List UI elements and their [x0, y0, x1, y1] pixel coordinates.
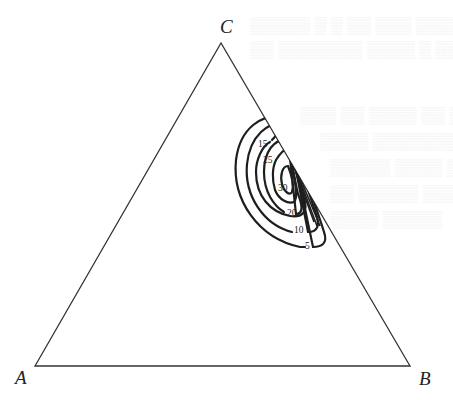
contour-label-15: 15: [258, 139, 268, 149]
contour-label-10: 10: [294, 225, 304, 235]
contour-label-30: 30: [278, 183, 288, 193]
contour-25: [273, 148, 296, 203]
contour-lines: [236, 117, 326, 247]
contour-label-20: 20: [287, 208, 297, 218]
vertex-label-b: B: [419, 369, 431, 388]
vertex-label-c: C: [220, 17, 233, 36]
vertex-label-a: A: [15, 368, 27, 387]
contour-label-25: 25: [263, 155, 273, 165]
triangle-outline: [35, 43, 410, 366]
ternary-diagram: 15 25 30 20 10 5: [0, 0, 453, 400]
contour-label-5: 5: [305, 241, 310, 251]
